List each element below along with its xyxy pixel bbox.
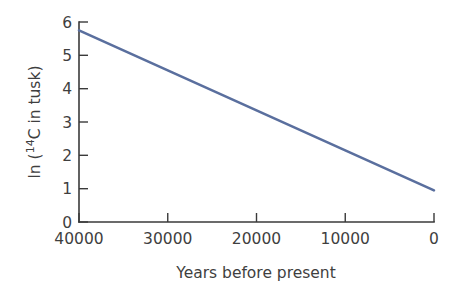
y-tick-label-2: 2 xyxy=(62,147,72,165)
y-tick-label-6: 6 xyxy=(62,14,72,32)
y-axis-title-element: C in tusk) xyxy=(26,66,44,140)
y-tick-label-5: 5 xyxy=(62,47,72,65)
y-tick-label-0: 0 xyxy=(62,214,72,232)
x-tick-label-0: 0 xyxy=(429,230,439,248)
y-axis-title-prefix: ln ( xyxy=(26,153,44,178)
y-axis-title: ln (14C in tusk) xyxy=(24,66,44,179)
y-axis-title-superscript: 14 xyxy=(24,139,37,153)
x-axis-title: Years before present xyxy=(175,264,336,282)
chart-figure: 0 1 2 3 4 5 6 ln (14C in tusk) 40000 300… xyxy=(0,0,464,301)
x-tick-label-20000: 20000 xyxy=(232,230,281,248)
y-tick-label-1: 1 xyxy=(62,180,72,198)
y-tick-label-4: 4 xyxy=(62,80,72,98)
y-tick-label-3: 3 xyxy=(62,114,72,132)
x-tick-label-10000: 10000 xyxy=(321,230,370,248)
x-tick-label-40000: 40000 xyxy=(54,230,103,248)
x-tick-label-30000: 30000 xyxy=(143,230,192,248)
chart-canvas: 0 1 2 3 4 5 6 ln (14C in tusk) 40000 300… xyxy=(0,0,464,301)
